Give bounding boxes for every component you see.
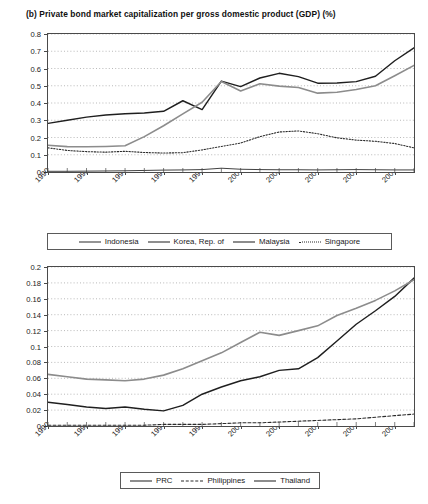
legend-label: Singapore [325,237,361,246]
legend-label: Philippines [207,476,245,485]
legend-line-swatch [299,238,321,245]
legend-label: PRC [156,476,172,485]
legend-label: Korea, Rep. of [174,237,224,246]
y-axis-tick-label: 0.1 [0,150,41,159]
legend-item[interactable]: Philippines [181,476,245,485]
y-axis-tick-label: 0.12 [0,326,41,335]
legend-item[interactable]: PRC [130,476,172,485]
y-axis-tick-label: 0.06 [0,374,41,383]
y-axis-tick-label: 0.7 [0,47,41,56]
series-line-philippines [48,414,414,425]
series-line-singapore [48,131,414,153]
top-chart-plot-area [47,33,415,173]
legend-line-swatch [79,238,101,245]
legend-item[interactable]: Korea, Rep. of [148,237,224,246]
bottom-chart-lines [48,267,415,427]
legend-item[interactable]: Indonesia [79,237,139,246]
y-axis-tick-label: 0.8 [0,30,41,39]
legend-line-swatch [181,477,203,484]
bottom-chart-plot-area [47,266,415,427]
legend-label: Thailand [280,476,310,485]
y-axis-tick-label: 0.2 [0,133,41,142]
legend-line-swatch [130,477,152,484]
y-axis-tick-label: 0.04 [0,390,41,399]
bottom-chart-legend: PRCPhilippinesThailand [120,472,320,489]
top-chart-panel: 00.10.20.30.40.50.60.70.8199019921994199… [0,0,428,258]
y-axis-tick-label: 0.16 [0,294,41,303]
series-line-malaysia [48,65,414,146]
top-chart-legend: IndonesiaKorea, Rep. ofMalaysiaSingapore [47,233,392,250]
y-axis-tick-label: 0.18 [0,278,41,287]
series-line-prc [48,278,414,411]
y-axis-tick-label: 0.5 [0,81,41,90]
chart-page: (b) Private bond market capitalization p… [0,0,428,504]
legend-label: Indonesia [105,237,139,246]
y-axis-tick-label: 0.08 [0,358,41,367]
legend-line-swatch [233,238,255,245]
y-axis-tick-label: 0.3 [0,116,41,125]
series-line-thailand [48,280,414,381]
top-chart-lines [48,34,415,173]
y-axis-tick-label: 0.14 [0,310,41,319]
y-axis-tick-label: 0.1 [0,342,41,351]
y-axis-tick-label: 0.02 [0,406,41,415]
bottom-chart-panel: 00.020.040.060.080.10.120.140.160.180.21… [0,258,428,504]
legend-item[interactable]: Singapore [299,237,361,246]
y-axis-tick-label: 0.4 [0,99,41,108]
legend-item[interactable]: Malaysia [233,237,290,246]
y-axis-tick-label: 0.2 [0,263,41,272]
legend-line-swatch [254,477,276,484]
legend-label: Malaysia [259,237,290,246]
legend-item[interactable]: Thailand [254,476,310,485]
series-line-indonesia [48,168,414,171]
y-axis-tick-label: 0.6 [0,64,41,73]
legend-line-swatch [148,238,170,245]
